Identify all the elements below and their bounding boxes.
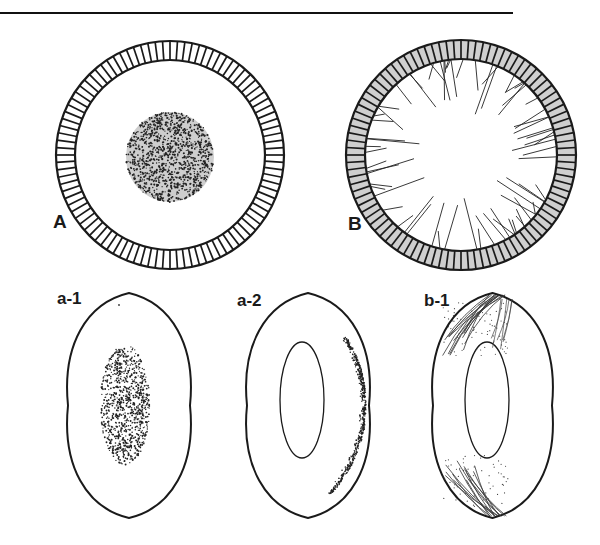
spike — [372, 120, 394, 121]
spike — [369, 184, 392, 187]
spike — [382, 207, 402, 211]
spike — [526, 98, 538, 105]
spike — [457, 59, 464, 78]
spike — [378, 106, 399, 109]
panel-label-b-1: b-1 — [424, 292, 450, 309]
spike — [523, 146, 557, 155]
spike — [366, 161, 386, 169]
spike — [499, 83, 525, 115]
spike — [366, 139, 419, 144]
spike — [432, 203, 444, 247]
spike — [438, 231, 440, 249]
spike — [370, 186, 385, 189]
diagram-canvas — [0, 0, 600, 545]
panel-label-a-2: a-2 — [237, 292, 262, 309]
lens-diagram-b-1 — [432, 293, 553, 518]
spike — [409, 74, 422, 88]
spike — [367, 159, 414, 174]
cell-diagram-B — [346, 40, 576, 270]
spike — [445, 60, 446, 72]
spike — [429, 63, 434, 79]
spike — [501, 195, 536, 214]
spike — [478, 229, 481, 249]
panel-label-B: B — [348, 214, 362, 233]
spike — [374, 178, 424, 196]
panel-label-a-1: a-1 — [57, 290, 82, 307]
lens-diagram-a-1 — [67, 293, 191, 518]
cell-diagram-A — [56, 41, 284, 269]
spike — [481, 66, 496, 109]
spike — [407, 204, 431, 234]
spike — [396, 84, 411, 104]
spike — [378, 107, 403, 130]
spike — [365, 148, 387, 152]
spike — [493, 219, 514, 235]
spike — [512, 220, 516, 234]
lens-diagram-a-2 — [246, 293, 370, 518]
spike — [464, 198, 477, 249]
spike — [502, 85, 526, 106]
panel-label-A: A — [53, 212, 67, 231]
spike — [445, 205, 458, 249]
spike — [404, 196, 433, 232]
spike — [451, 60, 457, 97]
spike — [475, 60, 478, 90]
spike — [519, 157, 557, 159]
spike — [505, 82, 523, 93]
